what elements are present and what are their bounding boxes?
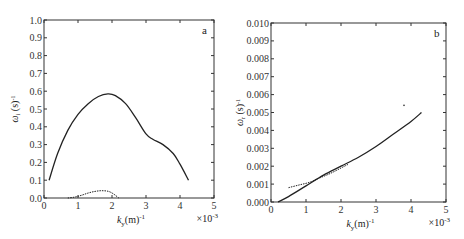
x-axis-label: ky(m)-1	[117, 213, 146, 228]
chart-panel-b: 0123450.0000.0010.0020.0030.0040.0050.00…	[234, 18, 450, 233]
chart-panel-a: 0123450.00.10.20.30.40.50.60.70.80.91.0k…	[9, 15, 218, 229]
x-tick-label: 3	[144, 200, 149, 211]
x-tick-label: 3	[374, 204, 379, 215]
y-tick-label: 0.002	[247, 161, 270, 172]
y-tick-label: 0.2	[30, 157, 43, 168]
y-tick-label: 0.7	[30, 68, 43, 79]
y-tick-label: 0.009	[247, 35, 270, 46]
y-tick-label: 0.007	[247, 71, 270, 82]
y-tick-label: 0.6	[30, 86, 43, 97]
y-tick-label: 0.1	[30, 175, 43, 186]
data-point	[403, 105, 405, 107]
x-tick-label: 2	[339, 204, 344, 215]
x-tick-label: 5	[444, 204, 449, 215]
y-tick-label: 0.8	[30, 50, 43, 61]
panel-label: a	[202, 24, 207, 36]
x-tick-label: 0	[42, 200, 47, 211]
dashed-series-line	[68, 191, 119, 198]
x-multiplier-label: ×10-3	[429, 216, 451, 228]
y-tick-label: 0.9	[30, 32, 43, 43]
figure: 0123450.00.10.20.30.40.50.60.70.80.91.0k…	[0, 0, 464, 239]
solid-series-line	[49, 94, 188, 180]
y-axis-label: ωr (s)-1	[234, 99, 246, 126]
x-tick-label: 5	[212, 200, 217, 211]
y-tick-label: 0.003	[247, 143, 270, 154]
y-tick-label: 1.0	[30, 15, 43, 26]
x-multiplier-label: ×10-3	[197, 212, 219, 224]
y-tick-label: 0.004	[247, 125, 270, 136]
x-tick-label: 2	[110, 200, 115, 211]
y-tick-label: 0.5	[30, 104, 43, 115]
y-tick-label: 0.006	[247, 89, 270, 100]
dashed-series-line	[289, 164, 349, 187]
x-axis-label: ky(m)-1	[346, 217, 375, 232]
y-tick-label: 0.005	[247, 107, 270, 118]
panel-label: b	[434, 27, 440, 39]
x-tick-label: 4	[178, 200, 183, 211]
y-tick-label: 0.000	[247, 197, 270, 208]
y-tick-label: 0.0	[30, 193, 43, 204]
y-tick-label: 0.008	[247, 53, 270, 64]
y-tick-label: 0.001	[247, 179, 270, 190]
solid-series-line	[278, 113, 422, 203]
y-axis-label: ωi (s)-1	[9, 96, 21, 123]
x-tick-label: 1	[304, 204, 309, 215]
plot-frame	[271, 23, 446, 202]
x-tick-label: 1	[76, 200, 81, 211]
y-tick-label: 0.3	[30, 139, 43, 150]
y-tick-label: 0.4	[30, 121, 43, 132]
x-tick-label: 4	[409, 204, 414, 215]
x-tick-label: 0	[269, 204, 274, 215]
y-tick-label: 0.010	[247, 18, 270, 29]
